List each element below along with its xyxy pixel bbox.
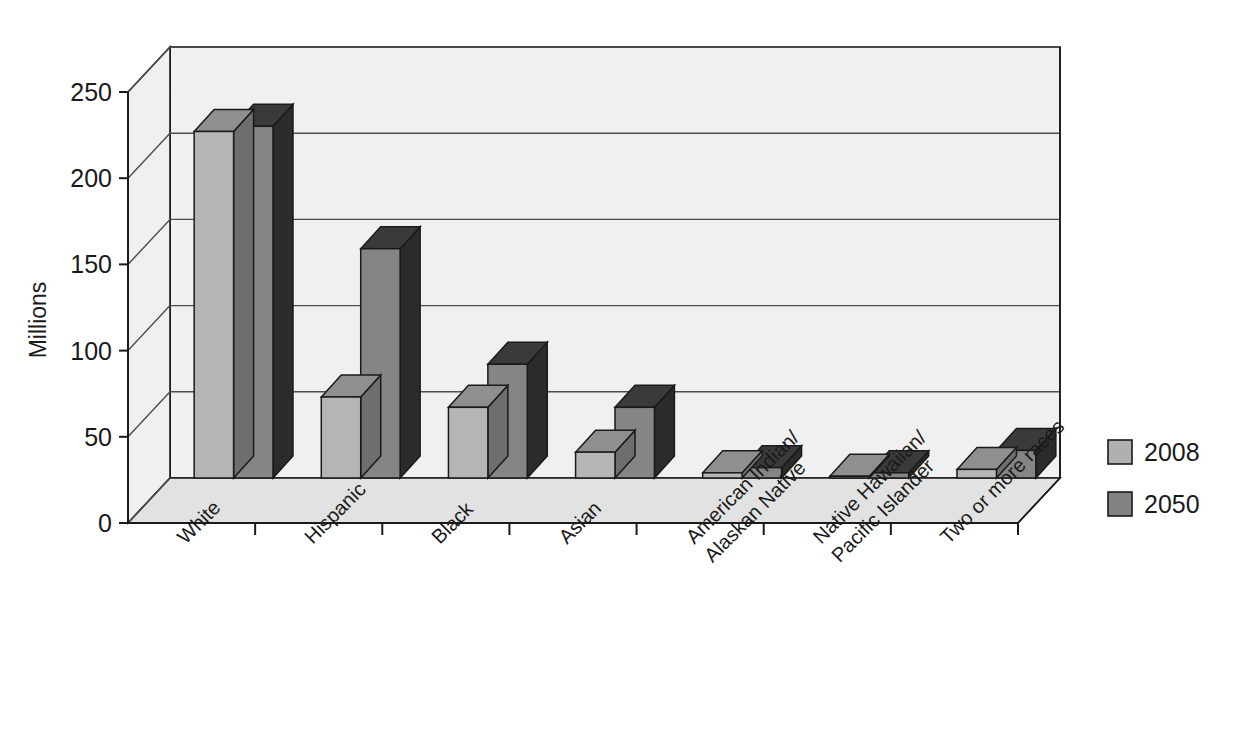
- y-tick-label: 0: [98, 509, 112, 537]
- y-tick-labels: 050100150200250: [70, 78, 112, 537]
- y-tick-label: 100: [70, 337, 112, 365]
- y-tick-label: 150: [70, 250, 112, 278]
- bar-2008-2: [448, 385, 507, 478]
- legend-item-2008[interactable]: 2008: [1108, 438, 1200, 466]
- population-projection-3d-bar-chart: 050100150200250 WhiteHispanicBlackAsianA…: [0, 0, 1237, 743]
- legend-label: 2008: [1144, 438, 1200, 466]
- bar-front-face: [448, 407, 487, 478]
- bar-front-face: [321, 397, 360, 478]
- legend-item-2050[interactable]: 2050: [1108, 490, 1200, 518]
- chart-container: 050100150200250 WhiteHispanicBlackAsianA…: [0, 0, 1237, 743]
- chart-legend: 20082050: [1108, 438, 1200, 518]
- y-tick-label: 50: [84, 423, 112, 451]
- bar-side-face: [527, 342, 547, 478]
- legend-swatch: [1108, 492, 1132, 516]
- bar-side-face: [234, 109, 254, 478]
- bar-front-face: [576, 452, 615, 478]
- y-tick-label: 200: [70, 164, 112, 192]
- y-axis-title: Millions: [25, 282, 51, 359]
- bar-2008-1: [321, 375, 380, 478]
- y-axis-title-group: Millions: [25, 282, 51, 359]
- left-wall-panel: [128, 47, 170, 523]
- bar-side-face: [400, 227, 420, 478]
- bar-front-face: [194, 131, 233, 478]
- y-axis-title-text: Millions: [25, 282, 51, 359]
- bar-2008-0: [194, 109, 253, 478]
- y-tick-label: 250: [70, 78, 112, 106]
- legend-swatch: [1108, 440, 1132, 464]
- bar-side-face: [273, 104, 293, 478]
- legend-label: 2050: [1144, 490, 1200, 518]
- y-axis: [119, 92, 128, 523]
